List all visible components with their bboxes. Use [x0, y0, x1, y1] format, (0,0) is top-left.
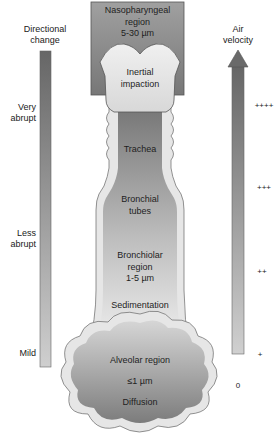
- nasopharyngeal-line2: region: [91, 17, 184, 29]
- bronchial-tubes-label: Bronchial tubes: [100, 194, 180, 217]
- level-less-abrupt-line1: Less: [0, 228, 36, 239]
- directional-change-bar: [40, 51, 51, 367]
- directional-change-title-line2: change: [10, 35, 80, 46]
- bronchial-line1: Bronchial: [100, 194, 180, 206]
- level-very-abrupt-line1: Very: [0, 102, 36, 113]
- inertial-impaction-label: Inertial impaction: [100, 67, 180, 90]
- level-very-abrupt-line2: abrupt: [0, 113, 36, 124]
- velocity-level-0: 0: [230, 380, 246, 391]
- sedimentation-label: Sedimentation: [90, 300, 190, 312]
- level-less-abrupt: Less abrupt: [0, 228, 36, 250]
- level-very-abrupt: Very abrupt: [0, 102, 36, 124]
- directional-change-title-line1: Directional: [10, 24, 80, 35]
- bronchial-line2: tubes: [100, 206, 180, 218]
- velocity-level-1: +: [252, 349, 268, 360]
- nasopharyngeal-line1: Nasopharyngeal: [91, 5, 184, 17]
- nasopharyngeal-size: 5-30 µm: [91, 28, 184, 40]
- bronchiolar-line2: region: [100, 262, 180, 274]
- alveolar-size: ≤1 µm: [90, 371, 190, 392]
- air-velocity-title: Air velocity: [218, 24, 258, 46]
- air-velocity-arrow: [228, 50, 248, 354]
- inertial-line2: impaction: [100, 79, 180, 91]
- alveolar-region-label: Alveolar region ≤1 µm Diffusion: [90, 350, 190, 413]
- nasopharyngeal-label: Nasopharyngeal region 5-30 µm: [91, 5, 184, 40]
- bronchiolar-size: 1-5 µm: [100, 273, 180, 285]
- bronchiolar-line1: Bronchiolar: [100, 250, 180, 262]
- trachea-label: Trachea: [100, 144, 180, 156]
- directional-change-title: Directional change: [10, 24, 80, 46]
- level-mild: Mild: [0, 348, 36, 359]
- velocity-level-3: +++: [252, 182, 276, 193]
- level-mild-line1: Mild: [0, 348, 36, 359]
- air-velocity-title-line1: Air: [218, 24, 258, 35]
- alveolar-mechanism: Diffusion: [90, 392, 190, 413]
- alveolar-line1: Alveolar region: [90, 350, 190, 371]
- air-velocity-title-line2: velocity: [218, 35, 258, 46]
- velocity-level-2: ++: [252, 266, 272, 277]
- bronchiolar-region-label: Bronchiolar region 1-5 µm: [100, 250, 180, 285]
- velocity-level-4: ++++: [252, 100, 276, 111]
- level-less-abrupt-line2: abrupt: [0, 239, 36, 250]
- inertial-line1: Inertial: [100, 67, 180, 79]
